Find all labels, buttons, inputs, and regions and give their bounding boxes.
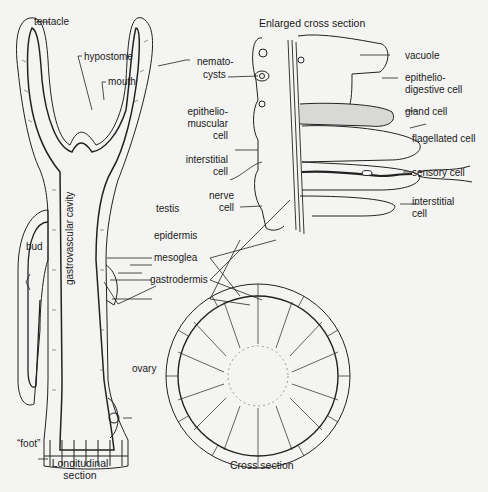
title-cross-section: Cross section [230,460,294,471]
label-flagellated-cell: flagellated cell [412,133,475,144]
label-epitheliodigestive-1: epithelio- [405,72,446,83]
label-epitheliomuscular-1: epithelio- [186,106,228,117]
label-mesoglea: mesoglea [154,252,197,263]
label-interstitial-left-1: interstitial [170,154,228,165]
longitudinal-mesoglea-line [28,28,140,450]
label-epitheliomuscular-2: muscular [180,118,228,129]
bud-outline [18,210,48,405]
label-nerve-2: cell [190,202,234,213]
title-enlarged-cross-section: Enlarged cross section [259,18,365,29]
label-testis: testis [156,203,179,214]
label-ovary: ovary [132,363,156,374]
label-gland-cell: gland cell [405,106,447,117]
label-interstitial-right-1: interstitial [412,196,454,207]
title-longitudinal-1: Longitudinal [50,458,110,469]
label-vacuole: vacuole [405,50,439,61]
label-tentacle: tentacle [34,16,69,27]
cross-section-drawing [166,284,350,468]
label-gastrodermis: gastrodermis [150,274,208,285]
label-epidermis: epidermis [154,230,197,241]
title-longitudinal-2: section [50,470,110,481]
label-interstitial-right-2: cell [412,208,427,219]
label-hypostome: hypostome [84,51,133,62]
label-bud: bud [26,241,43,252]
label-gastrovascular-cavity: gastrovascular cavity [64,192,75,285]
label-mouth: mouth [108,76,136,87]
label-foot: “foot” [17,438,40,449]
label-sensory-cell: sensory cell [412,167,465,178]
label-nematocysts-1: nemato- [197,56,234,67]
label-interstitial-left-2: cell [170,166,228,177]
label-nematocysts-2: cysts [203,69,226,80]
label-nerve-1: nerve [190,190,234,201]
leader-lines [26,22,426,459]
label-epitheliodigestive-2: digestive cell [405,84,462,95]
label-epitheliomuscular-3: cell [180,130,228,141]
